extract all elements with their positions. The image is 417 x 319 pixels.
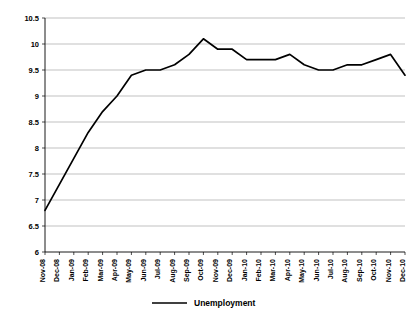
x-axis-tick-label: Nov-09	[212, 259, 219, 282]
y-axis-tick-label: 8.5	[29, 118, 39, 127]
x-axis-tick-label: Feb-09	[82, 259, 89, 282]
y-axis-tick-label: 7.5	[29, 170, 39, 179]
x-axis-tick-label: Jul-09	[154, 259, 161, 279]
x-axis-tick-label: Mar-10	[269, 259, 276, 282]
chart-legend: Unemployment	[152, 298, 256, 308]
data-series-group	[45, 39, 405, 211]
x-axis-tick-label: Jan-09	[68, 259, 75, 281]
x-axis-tick-label: Dec-09	[226, 259, 233, 282]
y-axis-tick-label: 9	[35, 92, 39, 101]
chart-canvas: 66.577.588.599.51010.5 Nov-08Dec-08Jan-0…	[0, 0, 417, 319]
x-axis-tick-label: May-10	[298, 259, 306, 283]
x-axis-tick-label: Jun-10	[313, 259, 320, 282]
x-axis-tick-label: Oct-10	[370, 259, 377, 281]
y-axis-tick-label: 7	[35, 196, 39, 205]
x-axis-tick-label: Dec-08	[53, 259, 60, 282]
x-axis-tick-label: Aug-09	[169, 259, 177, 283]
x-axis-tick-label: Mar-09	[97, 259, 104, 282]
x-axis-tick-label: Sep-09	[183, 259, 191, 282]
y-axis-tick-label: 10.5	[24, 14, 39, 23]
x-axis-tick-label: Jan-10	[241, 259, 248, 281]
series-line-unemployment	[45, 39, 405, 211]
unemployment-line-chart: 66.577.588.599.51010.5 Nov-08Dec-08Jan-0…	[0, 0, 417, 319]
x-axis-tick-label: May-09	[125, 259, 133, 283]
y-axis-tick-label: 6	[35, 248, 39, 257]
x-axis-tick-label: Sep-10	[356, 259, 364, 282]
x-axis-tick-label: Aug-10	[341, 259, 349, 283]
y-axis-labels-group: 66.577.588.599.51010.5	[24, 14, 39, 257]
x-axis-tick-label: Feb-10	[255, 259, 262, 282]
x-axis-tick-label: Jun-09	[140, 259, 147, 282]
x-axis-tick-label: Oct-09	[197, 259, 204, 281]
x-axis-tick-label: Apr-09	[111, 259, 119, 281]
x-axis-labels-group: Nov-08Dec-08Jan-09Feb-09Mar-09Apr-09May-…	[39, 259, 406, 283]
x-axis-tick-label: Jul-10	[327, 259, 334, 279]
legend-label-unemployment: Unemployment	[194, 298, 256, 308]
y-axis-tick-label: 10	[31, 40, 39, 49]
x-axis-tick-label: Apr-10	[284, 259, 292, 281]
x-axis-tick-label: Dec-10	[399, 259, 406, 282]
x-axis-tick-label: Nov-08	[39, 259, 46, 282]
y-axis-tick-label: 8	[35, 144, 39, 153]
y-axis-tick-label: 9.5	[29, 66, 39, 75]
y-axis-tick-label: 6.5	[29, 222, 39, 231]
x-axis-tick-label: Nov-10	[385, 259, 392, 282]
